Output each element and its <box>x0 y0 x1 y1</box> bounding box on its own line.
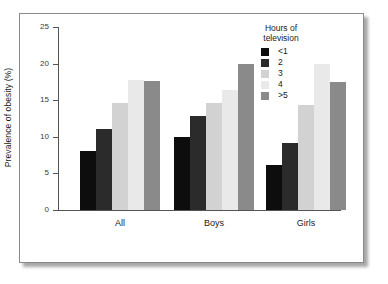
legend-swatch <box>261 70 269 78</box>
figure-frame: 0510152025 Prevalence of obesity (%) All… <box>19 13 364 263</box>
y-axis-title: Prevalence of obesity (%) <box>14 0 24 26</box>
y-axis-tick <box>53 210 58 211</box>
chart-legend: Hours of television <1234>5 <box>235 23 331 101</box>
bar[interactable] <box>298 105 314 210</box>
bar[interactable] <box>144 81 160 210</box>
y-axis-tick-label: 5 <box>20 169 49 177</box>
y-axis-tick-label: 0 <box>20 206 49 214</box>
y-axis-tick-label: 25 <box>20 23 49 31</box>
legend-items: <1234>5 <box>235 46 331 101</box>
legend-label: 3 <box>278 69 283 78</box>
legend-item[interactable]: <1 <box>261 46 331 57</box>
bar[interactable] <box>112 103 128 210</box>
bar[interactable] <box>266 165 282 210</box>
bar[interactable] <box>330 82 346 210</box>
legend-swatch <box>261 81 269 89</box>
bar[interactable] <box>282 143 298 210</box>
x-axis-label-girls: Girls <box>297 218 316 228</box>
legend-label: 4 <box>278 80 283 89</box>
legend-item[interactable]: >5 <box>261 90 331 101</box>
bar[interactable] <box>128 80 144 210</box>
bar-group-all <box>80 27 160 210</box>
legend-label: 2 <box>278 58 283 67</box>
legend-swatch <box>261 48 269 56</box>
bar[interactable] <box>222 90 238 210</box>
legend-swatch <box>261 59 269 67</box>
x-axis-label-all: All <box>115 218 125 228</box>
legend-item[interactable]: 3 <box>261 68 331 79</box>
bar[interactable] <box>80 151 96 210</box>
legend-label: >5 <box>278 91 288 100</box>
x-axis-label-boys: Boys <box>204 218 224 228</box>
y-axis-title-text: Prevalence of obesity (%) <box>3 26 13 209</box>
y-axis-tick-label: 15 <box>20 96 49 104</box>
legend-label: <1 <box>278 47 288 56</box>
bar[interactable] <box>190 116 206 210</box>
y-axis-tick-label: 10 <box>20 133 49 141</box>
bar[interactable] <box>206 103 222 210</box>
bar[interactable] <box>174 137 190 210</box>
x-axis-line <box>58 210 341 211</box>
y-axis-tick-label: 20 <box>20 60 49 68</box>
legend-item[interactable]: 2 <box>261 57 331 68</box>
bar[interactable] <box>96 129 112 210</box>
legend-swatch <box>261 92 269 100</box>
legend-title: Hours of television <box>235 23 331 43</box>
legend-item[interactable]: 4 <box>261 79 331 90</box>
